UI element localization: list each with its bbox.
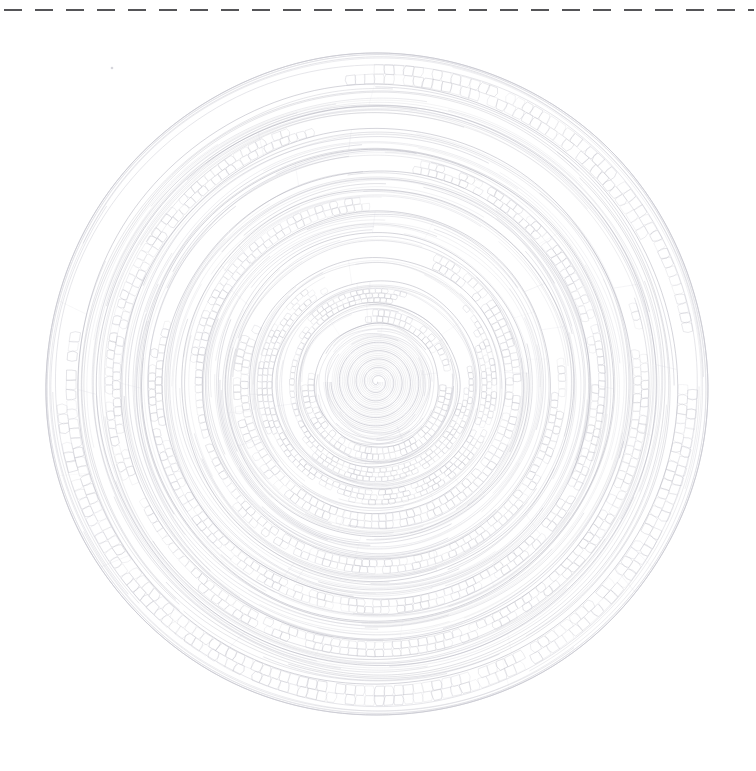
artifact-group [111,67,114,70]
dust-speck [111,67,114,70]
figure-root [0,0,756,771]
wood-cross-section-figure [0,0,756,771]
